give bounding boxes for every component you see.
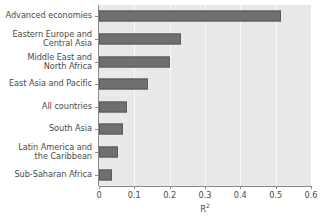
x-axis-title-exponent: 2	[206, 202, 210, 209]
bar	[99, 11, 281, 22]
x-axis-tick	[311, 186, 312, 189]
category-label: Middle East and North Africa	[0, 52, 92, 70]
plot-area	[99, 5, 311, 186]
category-label: East Asia and Pacific	[0, 80, 92, 89]
bar	[99, 101, 127, 112]
category-label: Advanced economies	[0, 12, 92, 21]
y-axis-tick	[95, 62, 98, 63]
x-axis-tick	[99, 186, 100, 189]
y-axis-tick	[95, 107, 98, 108]
category-label: Eastern Europe and Central Asia	[0, 30, 92, 48]
bar	[99, 33, 181, 44]
y-axis-tick	[95, 129, 98, 130]
x-axis-tick-label: 0.1	[128, 191, 141, 200]
y-axis-tick	[95, 175, 98, 176]
x-axis-tick-label: 0.5	[269, 191, 282, 200]
bar	[99, 124, 123, 135]
gridline	[170, 5, 171, 186]
gridline	[276, 5, 277, 186]
bar	[99, 169, 112, 180]
gridline	[240, 5, 241, 186]
y-axis-line	[98, 5, 99, 186]
x-axis-tick-label: 0.4	[234, 191, 247, 200]
x-axis-tick	[134, 186, 135, 189]
x-axis-tick-label: 0	[96, 191, 101, 200]
y-axis-tick	[95, 152, 98, 153]
category-axis: Advanced economiesEastern Europe and Cen…	[0, 5, 95, 186]
x-axis-tick-label: 0.3	[198, 191, 211, 200]
bar	[99, 79, 148, 90]
bar	[99, 56, 170, 67]
gridline	[134, 5, 135, 186]
x-axis-tick	[240, 186, 241, 189]
bar	[99, 147, 118, 158]
x-axis-tick	[276, 186, 277, 189]
x-axis-tick	[205, 186, 206, 189]
category-label: Sub-Saharan Africa	[0, 170, 92, 179]
y-axis-tick	[95, 84, 98, 85]
category-label: South Asia	[0, 125, 92, 134]
category-label: All countries	[0, 102, 92, 111]
x-axis-title: R2	[99, 204, 311, 214]
x-axis-tick	[170, 186, 171, 189]
gridline	[205, 5, 206, 186]
category-label: Latin America and the Caribbean	[0, 143, 92, 161]
x-axis-tick-label: 0.6	[304, 191, 317, 200]
x-axis-tick-label: 0.2	[163, 191, 176, 200]
y-axis-tick	[95, 39, 98, 40]
y-axis-tick	[95, 16, 98, 17]
bar-chart: Advanced economiesEastern Europe and Cen…	[0, 0, 327, 218]
